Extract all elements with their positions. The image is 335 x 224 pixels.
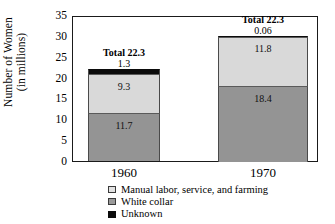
bar-1960-segment-manual: 9.3 bbox=[88, 74, 160, 113]
bar-1960-segment-white-collar: 11.7 bbox=[88, 113, 160, 161]
bar-1970-segment-manual: 11.8 bbox=[218, 37, 308, 86]
legend-item-unknown: Unknown bbox=[108, 208, 268, 220]
unknown-swatch-icon bbox=[108, 211, 116, 218]
x-axis-label-1960: 1960 bbox=[64, 166, 184, 180]
legend-label-unknown: Unknown bbox=[121, 208, 162, 220]
y-tick-label-30: 30 bbox=[27, 31, 67, 42]
bar-1960-total-label: Total 22.3 bbox=[54, 47, 194, 58]
y-tick-label-20: 20 bbox=[27, 73, 67, 84]
y-tick-label-35: 35 bbox=[27, 10, 67, 21]
bar-1970-unknown-value-label: 0.06 bbox=[193, 25, 333, 36]
legend-label-manual-labor: Manual labor, service, and farming bbox=[121, 184, 268, 196]
y-tick-label-5: 5 bbox=[27, 135, 67, 146]
bar-1960-label-white-collar: 11.7 bbox=[89, 121, 159, 131]
legend-item-white-collar: White collar bbox=[108, 196, 268, 208]
legend-label-white-collar: White collar bbox=[121, 196, 173, 208]
bar-1970-total-label: Total 22.3 bbox=[193, 14, 333, 25]
bar-1970-label-manual: 11.8 bbox=[219, 44, 307, 54]
bar-1960-label-manual: 9.3 bbox=[89, 82, 159, 92]
bar-1960-unknown-value-label: 1.3 bbox=[54, 58, 194, 69]
y-axis-title-line1: Number of Women bbox=[2, 0, 15, 127]
chart-legend: Manual labor, service, and farming White… bbox=[108, 184, 268, 221]
bar-1970: 11.8 18.4 bbox=[218, 36, 308, 162]
white-collar-swatch-icon bbox=[108, 198, 116, 205]
y-tick-label-15: 15 bbox=[27, 93, 67, 104]
bar-1970-segment-white-collar: 18.4 bbox=[218, 86, 308, 162]
x-axis-label-1970: 1970 bbox=[203, 166, 323, 180]
bar-1970-label-white-collar: 18.4 bbox=[219, 94, 307, 104]
manual-swatch-icon bbox=[108, 186, 116, 193]
y-tick-label-0: 0 bbox=[27, 156, 67, 167]
y-tick-label-10: 10 bbox=[27, 114, 67, 125]
bar-1960: 9.3 11.7 bbox=[88, 69, 160, 161]
stacked-bar-chart: Number of Women (in millions) 35 30 25 2… bbox=[0, 0, 335, 224]
legend-item-manual-labor: Manual labor, service, and farming bbox=[108, 184, 268, 196]
